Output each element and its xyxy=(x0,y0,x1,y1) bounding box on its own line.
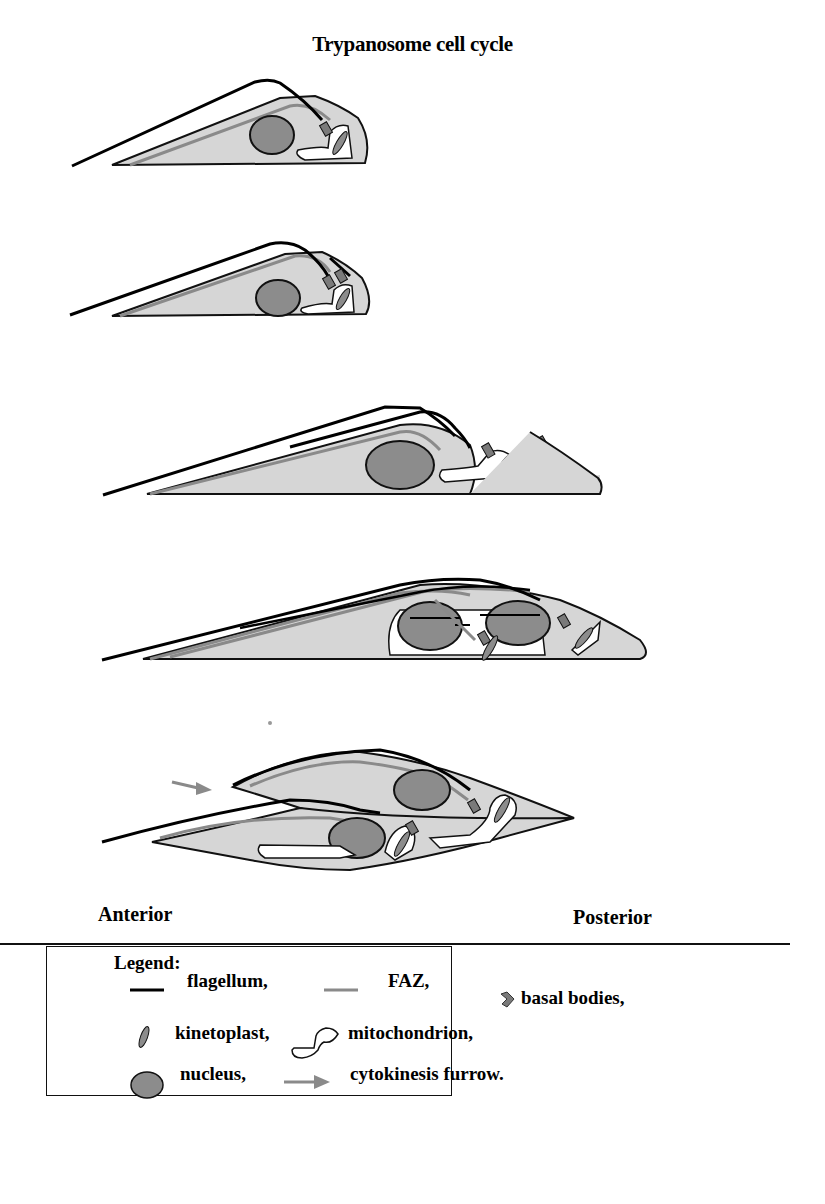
basal-body-legend-icon xyxy=(498,990,518,1010)
mitochondrion-legend-icon xyxy=(290,1026,344,1062)
divider-line xyxy=(0,943,790,945)
cytokinesis-furrow-arrow-icon xyxy=(172,782,212,795)
posterior-label: Posterior xyxy=(573,906,652,929)
cell-stage-1 xyxy=(72,80,369,166)
cell-stage-4 xyxy=(102,579,646,662)
legend-heading: Legend: xyxy=(114,952,181,974)
legend-label-kinetoplast: kinetoplast, xyxy=(175,1022,270,1044)
kinetoplast-legend-icon xyxy=(136,1024,152,1050)
legend-label-cytokinesis-furrow: cytokinesis furrow. xyxy=(350,1063,504,1085)
cytokinesis-furrow-legend-icon xyxy=(282,1072,334,1092)
cell-stage-3 xyxy=(103,407,602,495)
legend-label-mitochondrion: mitochondrion, xyxy=(348,1022,473,1044)
legend-label-faz: FAZ, xyxy=(388,970,429,992)
cell-stage-5 xyxy=(102,721,574,870)
legend-label-flagellum: flagellum, xyxy=(187,970,268,992)
nucleus xyxy=(366,441,434,489)
faz-legend-icon xyxy=(324,982,360,994)
legend-label-basal-bodies: basal bodies, xyxy=(521,987,624,1009)
cell-cycle-diagram xyxy=(0,0,825,940)
nucleus xyxy=(394,770,450,810)
flagellum-legend-icon xyxy=(130,982,166,994)
cell-stage-2 xyxy=(70,243,369,316)
legend-label-nucleus: nucleus, xyxy=(180,1063,246,1085)
cropped-caption-text xyxy=(0,1180,825,1204)
nucleus-legend-icon xyxy=(129,1070,165,1100)
nucleus xyxy=(250,116,294,154)
anterior-label: Anterior xyxy=(98,903,172,926)
basal-body xyxy=(482,443,495,458)
nucleus xyxy=(256,280,300,316)
mitochondrion xyxy=(258,845,355,858)
nucleus xyxy=(398,602,462,650)
